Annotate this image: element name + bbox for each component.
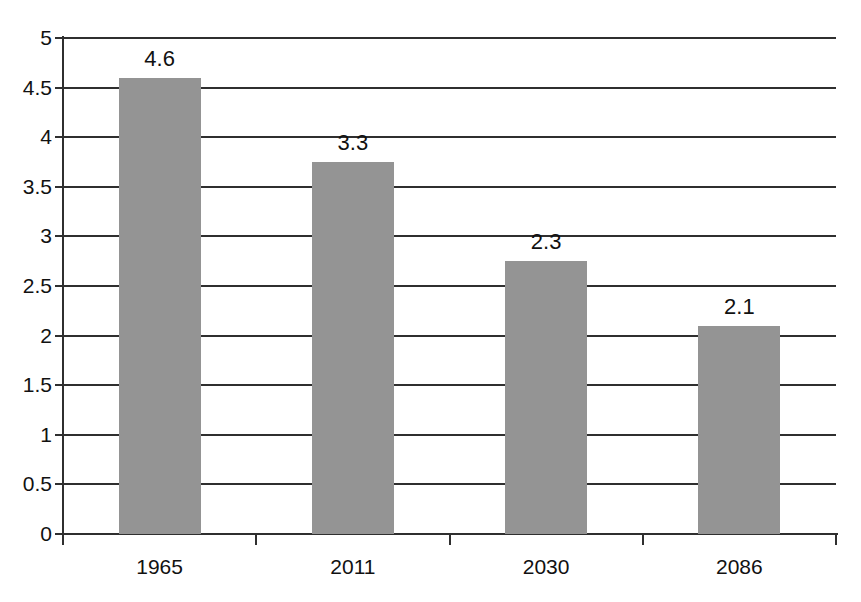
bar-value-label: 4.6 [89,48,231,70]
y-axis-label: 0 [4,523,52,544]
bar-value-label: 2.3 [475,231,617,253]
bar-value-label: 2.1 [668,296,810,318]
y-axis-label: 1.5 [4,374,52,395]
y-axis-label: 0.5 [4,473,52,494]
x-axis-tick [642,534,644,545]
bar [698,326,780,534]
x-axis-tick [449,534,451,545]
y-axis-label: 2 [4,325,52,346]
y-axis-label: 4.5 [4,77,52,98]
bar [505,261,587,534]
x-axis-tick [835,534,837,545]
y-axis-label: 4 [4,126,52,147]
x-axis-tick [255,534,257,545]
y-axis-label: 1 [4,424,52,445]
bar-value-label: 3.3 [282,132,424,154]
x-axis-label: 1965 [100,556,220,577]
bar [119,78,201,534]
bar-chart: 54.543.532.521.510.50 1965201120302086 4… [0,0,861,602]
gridline [63,37,836,39]
plot-area [63,38,836,534]
y-axis-label: 2.5 [4,275,52,296]
x-axis-label: 2030 [486,556,606,577]
y-axis-label: 5 [4,27,52,48]
bar [312,162,394,534]
x-axis-tick [62,534,64,545]
x-axis-label: 2011 [293,556,413,577]
y-axis-label: 3.5 [4,176,52,197]
y-axis-label: 3 [4,225,52,246]
x-axis-label: 2086 [679,556,799,577]
